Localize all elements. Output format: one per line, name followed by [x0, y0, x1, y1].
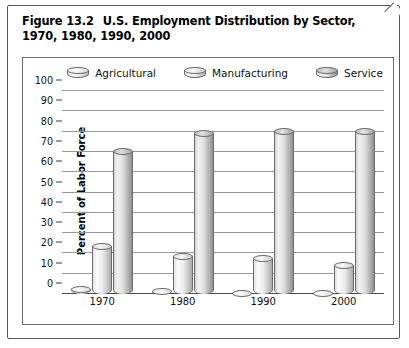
figure-title: Figure 13.2U.S. Employment Distribution …: [22, 14, 384, 44]
legend-item-service[interactable]: Service: [316, 67, 383, 80]
bar-manufacturing-1990[interactable]: [253, 255, 273, 294]
bar-group-1970: [71, 91, 133, 294]
bar-service-2000[interactable]: [355, 128, 375, 294]
y-axis-tick: 60: [23, 156, 62, 167]
y-axis-tick-label: 10: [41, 257, 53, 268]
y-axis-tick-label: 80: [41, 115, 53, 126]
y-axis-tick: 10: [23, 257, 62, 268]
y-axis-tick-label: 90: [41, 95, 53, 106]
y-axis-tick-label: 70: [41, 135, 53, 146]
cylinder-icon: [67, 67, 89, 80]
legend-item-agricultural[interactable]: Agricultural: [67, 67, 156, 80]
bar-service-1990[interactable]: [274, 128, 294, 294]
y-axis-tick: 50: [23, 176, 62, 187]
legend-label: Agricultural: [95, 67, 156, 79]
x-axis-tick-label: 1990: [231, 296, 295, 307]
figure-container: Figure 13.2U.S. Employment Distribution …: [7, 5, 400, 339]
y-axis-tick-label: 50: [41, 176, 53, 187]
bar-group-2000: [313, 91, 375, 294]
y-axis-tick: 70: [23, 135, 62, 146]
x-axis-tick-label: 2000: [312, 296, 376, 307]
y-axis-tick-label: 20: [41, 237, 53, 248]
bar-agricultural-2000[interactable]: [313, 290, 333, 294]
bar-agricultural-1990[interactable]: [232, 290, 252, 294]
bar-service-1980[interactable]: [194, 130, 214, 294]
y-axis-tick-label: 100: [35, 75, 53, 86]
cylinder-icon: [184, 67, 206, 80]
legend-label: Service: [344, 67, 383, 79]
plot-area: [62, 91, 384, 294]
legend-label: Manufacturing: [212, 67, 288, 79]
y-axis-tick-mark: [56, 80, 62, 81]
y-axis-tick: 0: [23, 278, 62, 289]
y-axis-tick: 30: [23, 217, 62, 228]
bar-groups: [62, 91, 384, 294]
cylinder-icon: [316, 67, 338, 80]
corner-notch: [384, 2, 402, 20]
y-axis-tick: 80: [23, 115, 62, 126]
x-axis: 1970198019902000: [62, 296, 384, 316]
y-axis-tick: 20: [23, 237, 62, 248]
y-axis-tick-label: 0: [47, 278, 53, 289]
chart-legend: Agricultural Manufacturing Service: [23, 58, 393, 88]
y-axis: 1009080706050403020100: [23, 91, 62, 294]
bar-manufacturing-2000[interactable]: [334, 262, 354, 294]
legend-item-manufacturing[interactable]: Manufacturing: [184, 67, 288, 80]
y-axis-tick: 40: [23, 196, 62, 207]
y-axis-tick: 90: [23, 95, 62, 106]
chart-frame: Agricultural Manufacturing Service Perce…: [22, 57, 394, 325]
bar-agricultural-1970[interactable]: [71, 286, 91, 294]
bar-manufacturing-1980[interactable]: [173, 253, 193, 294]
figure-number: Figure 13.2: [22, 14, 94, 28]
bar-group-1980: [152, 91, 214, 294]
x-axis-tick-label: 1970: [70, 296, 134, 307]
x-axis-tick-label: 1980: [151, 296, 215, 307]
bar-manufacturing-1970[interactable]: [92, 243, 112, 294]
y-axis-tick-label: 60: [41, 156, 53, 167]
bar-group-1990: [232, 91, 294, 294]
y-axis-tick-label: 30: [41, 217, 53, 228]
bar-agricultural-1980[interactable]: [152, 288, 172, 294]
bar-service-1970[interactable]: [113, 148, 133, 294]
y-axis-tick-label: 40: [41, 196, 53, 207]
y-axis-tick: 100: [23, 75, 62, 86]
